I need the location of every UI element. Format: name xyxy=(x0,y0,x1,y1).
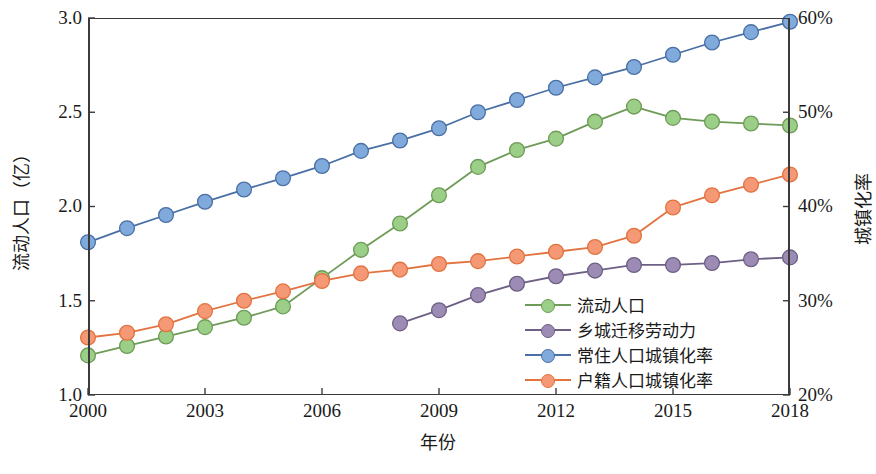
xtick-2006: 2006 xyxy=(287,400,357,422)
legend-label-0: 流动人口 xyxy=(577,292,645,317)
chart-figure: 1.0 1.5 2.0 2.5 3.0 20% 30% 40% 50% 60% … xyxy=(0,0,876,474)
legend-item-xiangcheng-qianyi[interactable]: 乡城迁移劳动力 xyxy=(525,317,775,342)
legend-swatch-icon-1 xyxy=(525,321,571,339)
legend-swatch-icon-0 xyxy=(525,296,571,314)
ytick-left-4: 3.0 xyxy=(36,7,82,29)
ytick-right-2: 40% xyxy=(798,195,833,217)
legend-dot-1 xyxy=(541,324,555,338)
x-axis-title: 年份 xyxy=(0,428,876,454)
y-axis-right-title: 城镇化率 xyxy=(849,119,875,299)
xtick-2009: 2009 xyxy=(404,400,474,422)
xtick-2015: 2015 xyxy=(638,400,708,422)
legend-dot-2 xyxy=(541,349,555,363)
legend-item-liudong-renkou[interactable]: 流动人口 xyxy=(525,292,775,317)
legend-label-3: 户籍人口城镇化率 xyxy=(577,367,713,392)
ytick-right-1: 30% xyxy=(798,290,833,312)
ytick-left-2: 2.0 xyxy=(36,195,82,217)
xtick-2003: 2003 xyxy=(170,400,240,422)
legend-swatch-icon-2 xyxy=(525,346,571,364)
legend-item-changzhu-chengzhenhualv[interactable]: 常住人口城镇化率 xyxy=(525,342,775,367)
ytick-left-1: 1.5 xyxy=(36,290,82,312)
legend-swatch-icon-3 xyxy=(525,371,571,389)
y-axis-left-title: 流动人口（亿） xyxy=(7,118,33,298)
ytick-right-3: 50% xyxy=(798,101,833,123)
xtick-2000: 2000 xyxy=(53,400,123,422)
legend-label-1: 乡城迁移劳动力 xyxy=(577,317,696,342)
ytick-right-4: 60% xyxy=(798,7,833,29)
xtick-2012: 2012 xyxy=(521,400,591,422)
legend-item-huji-chengzhenhualv[interactable]: 户籍人口城镇化率 xyxy=(525,367,775,392)
legend-dot-3 xyxy=(541,374,555,388)
xtick-2018: 2018 xyxy=(755,400,825,422)
legend-dot-0 xyxy=(541,299,555,313)
ytick-left-3: 2.5 xyxy=(36,101,82,123)
legend-label-2: 常住人口城镇化率 xyxy=(577,342,713,367)
chart-legend: 流动人口 乡城迁移劳动力 常住人口城镇化率 户籍人口城镇化率 xyxy=(525,292,775,392)
